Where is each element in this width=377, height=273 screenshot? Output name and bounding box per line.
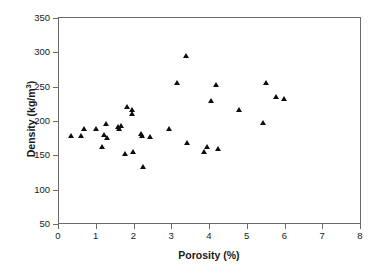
data-point bbox=[93, 126, 99, 131]
x-axis-tick-label: 2 bbox=[122, 231, 146, 241]
data-point bbox=[81, 126, 87, 131]
x-axis-tick bbox=[209, 224, 210, 229]
x-axis-tick bbox=[322, 224, 323, 229]
data-point bbox=[103, 121, 109, 126]
y-axis-tick bbox=[53, 121, 58, 122]
y-axis-tick bbox=[53, 18, 58, 19]
y-axis-tick bbox=[53, 190, 58, 191]
data-point bbox=[129, 111, 135, 116]
x-axis-tick-label: 4 bbox=[197, 231, 221, 241]
data-point bbox=[139, 133, 145, 138]
y-axis-tick-label: 50 bbox=[10, 219, 50, 229]
data-point bbox=[78, 133, 84, 138]
x-axis-tick bbox=[171, 224, 172, 229]
data-point bbox=[183, 53, 189, 58]
data-point bbox=[140, 164, 146, 169]
data-point bbox=[281, 96, 287, 101]
x-axis-tick bbox=[360, 224, 361, 229]
data-point bbox=[215, 146, 221, 151]
x-axis-tick bbox=[134, 224, 135, 229]
data-point bbox=[184, 140, 190, 145]
data-point bbox=[174, 80, 180, 85]
x-axis-title: Porosity (%) bbox=[58, 249, 360, 261]
data-point bbox=[204, 144, 210, 149]
x-axis-tick bbox=[58, 224, 59, 229]
data-point bbox=[122, 151, 128, 156]
data-point bbox=[104, 135, 110, 140]
y-axis-tick bbox=[53, 87, 58, 88]
x-axis-tick bbox=[247, 224, 248, 229]
data-point bbox=[68, 133, 74, 138]
x-axis-tick-label: 5 bbox=[235, 231, 259, 241]
x-axis-tick-label: 3 bbox=[159, 231, 183, 241]
data-point bbox=[263, 80, 269, 85]
data-point bbox=[260, 120, 266, 125]
data-point bbox=[273, 94, 279, 99]
data-point bbox=[236, 107, 242, 112]
scatter-chart-figure: 50100150200250300350 012345678 Porosity … bbox=[0, 0, 377, 273]
data-point bbox=[130, 149, 136, 154]
data-point bbox=[166, 126, 172, 131]
x-axis-tick-label: 7 bbox=[310, 231, 334, 241]
data-point bbox=[213, 82, 219, 87]
y-axis-title-wrapper: Density (kg/m3) bbox=[21, 19, 39, 219]
x-axis-tick-label: 8 bbox=[348, 231, 372, 241]
data-point bbox=[118, 123, 124, 128]
data-point bbox=[208, 98, 214, 103]
x-axis-tick-label: 1 bbox=[84, 231, 108, 241]
data-point bbox=[147, 134, 153, 139]
y-axis-tick bbox=[53, 155, 58, 156]
data-point bbox=[99, 144, 105, 149]
y-axis-title: Density (kg/m3) bbox=[25, 81, 37, 158]
x-axis-tick-label: 0 bbox=[46, 231, 70, 241]
x-axis-tick bbox=[285, 224, 286, 229]
x-axis-tick bbox=[96, 224, 97, 229]
y-axis-tick bbox=[53, 52, 58, 53]
x-axis-tick-label: 6 bbox=[273, 231, 297, 241]
